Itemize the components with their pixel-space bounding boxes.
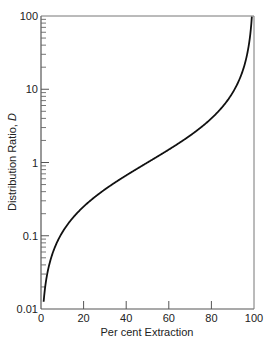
y-tick-label: 10 [26, 83, 38, 95]
y-tick-label: 1 [32, 157, 38, 169]
y-tick-label: 100 [20, 10, 38, 22]
x-tick-label: 20 [77, 312, 89, 324]
x-tick-label: 0 [38, 312, 44, 324]
x-tick-label: 40 [120, 312, 132, 324]
x-axis-title: Per cent Extraction [101, 326, 194, 338]
y-axis-title-variable: D [6, 113, 18, 121]
y-axis-title: Distribution Ratio, D [6, 113, 18, 211]
y-tick-label: 0.1 [23, 230, 38, 242]
y-axis-title-main: Distribution Ratio, [6, 121, 18, 211]
y-tick-label: 0.01 [17, 303, 38, 315]
distribution-ratio-chart: 020406080100 0.010.1110100 Per cent Extr… [0, 0, 274, 347]
distribution-ratio-curve [44, 17, 252, 302]
x-tick-label: 60 [163, 312, 175, 324]
data-series [44, 17, 252, 302]
y-axis-ticks: 0.010.1110100 [17, 10, 49, 315]
x-tick-label: 80 [205, 312, 217, 324]
x-axis-ticks: 020406080100 [38, 301, 263, 324]
x-tick-label: 100 [245, 312, 263, 324]
